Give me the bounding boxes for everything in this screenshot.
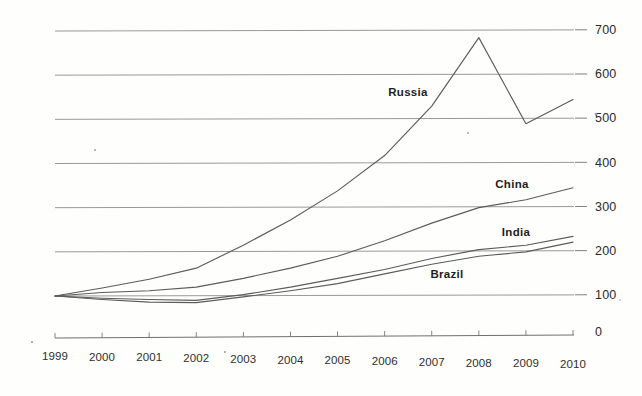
scan-speckles-group (31, 113, 621, 353)
x-axis-label: 2002 (183, 352, 209, 364)
line-chart: 1002003004005006007000 19992000200120022… (0, 0, 642, 396)
y-axis-label: 300 (595, 200, 616, 214)
y-axis-label: 500 (595, 111, 616, 125)
x-axis-label: 2007 (419, 356, 445, 368)
x-axis-label: 2009 (513, 357, 539, 369)
series-line-china (55, 188, 573, 296)
y-axis-label: 700 (595, 23, 616, 37)
y-axis-origin-label: 0 (595, 325, 602, 339)
x-axis-label: 1999 (42, 350, 68, 362)
gridline (55, 207, 574, 208)
scan-speckle (595, 113, 598, 116)
data-series-group (55, 38, 573, 303)
x-axis-label: 2010 (560, 358, 586, 370)
x-axis-label: 2000 (89, 351, 115, 363)
y-axis-label: 600 (595, 67, 616, 81)
x-axis-line (55, 335, 574, 338)
y-axis-label: 400 (595, 156, 616, 170)
gridline (55, 295, 574, 296)
series-label-china: China (495, 178, 529, 190)
x-axis-label: 2004 (277, 354, 303, 366)
series-label-russia: Russia (388, 86, 428, 98)
x-axis-label: 2008 (466, 357, 492, 369)
scan-speckle (619, 299, 621, 301)
x-axis-label: 2003 (230, 353, 256, 365)
gridline (55, 162, 574, 163)
chart-container: 1002003004005006007000 19992000200120022… (0, 0, 642, 396)
y-axis-label: 100 (595, 288, 616, 302)
gridline (55, 30, 574, 31)
x-axis-labels-group: 1999200020012002200320042005200620072008… (42, 350, 586, 370)
x-axis-group (55, 330, 574, 338)
series-label-brazil: Brazil (430, 268, 463, 280)
y-axis-label: 200 (595, 244, 616, 258)
gridline (55, 251, 574, 252)
gridline (55, 118, 574, 119)
gridline (55, 74, 574, 75)
y-axis-labels-group: 1002003004005006007000 (575, 23, 616, 339)
scan-speckle (467, 132, 469, 134)
x-axis-label: 2005 (325, 354, 351, 366)
series-line-russia (55, 38, 573, 296)
x-axis-label: 2001 (136, 351, 162, 363)
scan-speckle (31, 341, 33, 343)
scan-speckle (94, 149, 96, 151)
scan-speckle (224, 351, 226, 353)
series-label-india: India (502, 226, 531, 238)
x-axis-label: 2006 (372, 355, 398, 367)
